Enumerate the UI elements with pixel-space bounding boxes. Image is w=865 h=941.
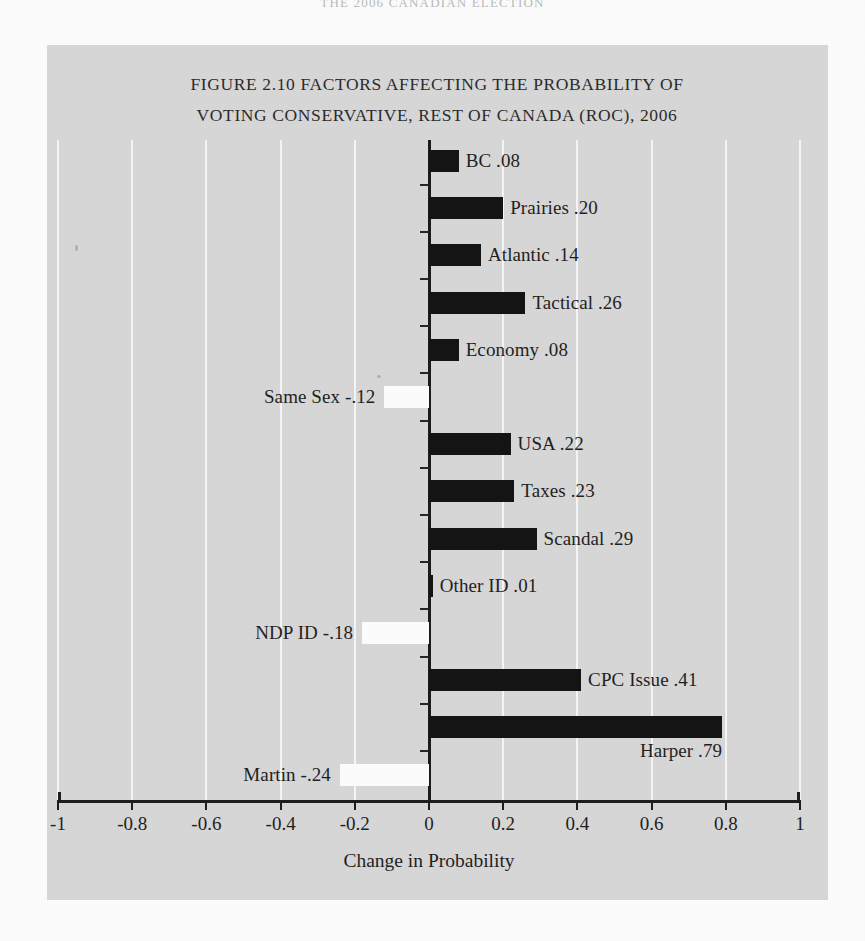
x-tick-label-4: -0.2 [340, 813, 370, 835]
x-axis-title: Change in Probability [58, 850, 800, 872]
x-tick-10 [799, 800, 801, 810]
gridline-4 [354, 140, 356, 800]
bar-row[interactable]: NDP ID -.18 [58, 622, 800, 644]
axis-tick-minor [420, 325, 429, 327]
x-tick-label-6: 0.2 [491, 813, 515, 835]
bar-label: Tactical .26 [532, 292, 622, 314]
x-tick-label-2: -0.6 [191, 813, 221, 835]
bar[interactable]: Prairies .20 [429, 197, 503, 219]
axis-tick-minor [420, 184, 429, 186]
bar-label: Martin -.24 [243, 764, 331, 786]
bar[interactable]: CPC Issue .41 [429, 669, 581, 691]
x-tick-1 [131, 800, 133, 810]
bar-label: BC .08 [466, 150, 520, 172]
axis-tick-minor [420, 608, 429, 610]
running-header: THE 2006 CANADIAN ELECTION [0, 0, 865, 7]
x-tick-3 [280, 800, 282, 810]
x-tick-label-5: 0 [424, 813, 434, 835]
gridline-7 [576, 140, 578, 800]
bar-row[interactable]: Other ID .01 [58, 575, 800, 597]
figure-title-line-1: FIGURE 2.10 FACTORS AFFECTING THE PROBAB… [107, 69, 767, 100]
x-tick-4 [354, 800, 356, 810]
bar-label: Same Sex -.12 [264, 386, 376, 408]
axis-tick-minor [420, 703, 429, 705]
figure-panel: FIGURE 2.10 FACTORS AFFECTING THE PROBAB… [47, 45, 828, 900]
bar-row[interactable]: Same Sex -.12 [58, 386, 800, 408]
axis-tick-minor [420, 561, 429, 563]
bar-label: Scandal .29 [544, 528, 634, 550]
gridline-2 [205, 140, 207, 800]
x-tick-label-0: -1 [50, 813, 66, 835]
bar-row[interactable]: Economy .08 [58, 339, 800, 361]
x-tick-2 [205, 800, 207, 810]
x-tick-0 [57, 800, 59, 810]
gridline-1 [131, 140, 133, 800]
bar-row[interactable]: Martin -.24 [58, 764, 800, 786]
bar-row[interactable]: Harper .79 [58, 716, 800, 738]
x-tick-8 [651, 800, 653, 810]
figure-title: FIGURE 2.10 FACTORS AFFECTING THE PROBAB… [107, 69, 767, 131]
bar-label: Prairies .20 [510, 197, 598, 219]
gridline-9 [725, 140, 727, 800]
axis-tick-minor [420, 656, 429, 658]
bar[interactable]: Same Sex -.12 [384, 386, 429, 408]
bar-row[interactable]: USA .22 [58, 433, 800, 455]
bar[interactable]: Tactical .26 [429, 292, 525, 314]
bar-row[interactable]: Taxes .23 [58, 480, 800, 502]
bar-label: CPC Issue .41 [588, 669, 697, 691]
gridline-3 [280, 140, 282, 800]
bar-label: Other ID .01 [440, 575, 538, 597]
gridline-8 [651, 140, 653, 800]
bar[interactable]: Harper .79 [429, 716, 722, 738]
axis-tick-minor [420, 231, 429, 233]
x-tick-label-7: 0.4 [566, 813, 590, 835]
bar-label: Economy .08 [466, 339, 568, 361]
axis-tick-minor [420, 750, 429, 752]
x-tick-label-3: -0.4 [266, 813, 296, 835]
page-bottom-smudges [70, 915, 795, 933]
bar[interactable]: Economy .08 [429, 339, 459, 361]
plot-area: BC .08Prairies .20Atlantic .14Tactical .… [58, 140, 800, 800]
bar-label: Harper .79 [640, 740, 722, 762]
axis-tick-minor [420, 514, 429, 516]
bar[interactable]: Martin -.24 [340, 764, 429, 786]
x-tick-label-8: 0.6 [640, 813, 664, 835]
bar[interactable]: NDP ID -.18 [362, 622, 429, 644]
bar-row[interactable]: Scandal .29 [58, 528, 800, 550]
axis-tick-minor [420, 467, 429, 469]
x-tick-label-9: 0.8 [714, 813, 738, 835]
axis-tick-minor [420, 278, 429, 280]
bar[interactable]: USA .22 [429, 433, 511, 455]
bar[interactable]: Taxes .23 [429, 480, 514, 502]
x-tick-6 [502, 800, 504, 810]
gridline-10 [799, 140, 801, 800]
bar-label: USA .22 [518, 433, 584, 455]
bar-row[interactable]: Tactical .26 [58, 292, 800, 314]
gridline-0 [57, 140, 59, 800]
x-tick-9 [725, 800, 727, 810]
bar[interactable]: BC .08 [429, 150, 459, 172]
bar-label: NDP ID -.18 [255, 622, 353, 644]
bar-label: Taxes .23 [521, 480, 594, 502]
bar[interactable]: Atlantic .14 [429, 244, 481, 266]
x-tick-label-1: -0.8 [117, 813, 147, 835]
gridline-6 [502, 140, 504, 800]
x-tick-5 [428, 800, 430, 810]
bar-row[interactable]: CPC Issue .41 [58, 669, 800, 691]
bar[interactable]: Scandal .29 [429, 528, 537, 550]
zero-axis-line [428, 140, 431, 800]
x-tick-7 [576, 800, 578, 810]
bar[interactable]: Other ID .01 [429, 575, 433, 597]
x-tick-label-10: 1 [795, 813, 805, 835]
figure-title-line-2: VOTING CONSERVATIVE, REST OF CANADA (ROC… [107, 100, 767, 131]
bar-row[interactable]: BC .08 [58, 150, 800, 172]
axis-tick-minor [420, 372, 429, 374]
bar-row[interactable]: Atlantic .14 [58, 244, 800, 266]
bar-label: Atlantic .14 [488, 244, 579, 266]
axis-tick-minor [420, 420, 429, 422]
bar-row[interactable]: Prairies .20 [58, 197, 800, 219]
